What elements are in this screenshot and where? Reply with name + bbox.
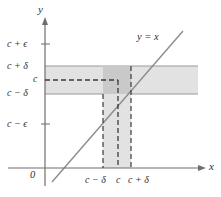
y-axis-arrow <box>42 17 48 25</box>
figure-canvas <box>0 0 221 197</box>
y-tick-c-minus-delta-label: c − δ <box>7 88 28 98</box>
origin-label: 0 <box>30 170 35 181</box>
y-tick-c-plus-epsilon-label: c + ϵ <box>7 39 27 49</box>
x-tick-c-label: c <box>116 175 120 185</box>
x-tick-c-plus-delta-label: c + δ <box>128 175 149 185</box>
y-tick-c-minus-epsilon-label: c − ϵ <box>7 119 27 129</box>
y-tick-c-plus-delta-label: c + δ <box>7 61 28 71</box>
epsilon-delta-figure: y x 0 y = x c + ϵ c + δ c c − δ c − ϵ c … <box>0 0 221 197</box>
y-tick-c-label: c <box>33 74 37 84</box>
x-tick-c-minus-delta-label: c − δ <box>85 175 106 185</box>
y-axis-label: y <box>38 4 43 15</box>
x-axis-label: x <box>209 161 214 172</box>
identity-line-label: y = x <box>137 32 159 43</box>
x-axis-arrow <box>198 165 206 171</box>
